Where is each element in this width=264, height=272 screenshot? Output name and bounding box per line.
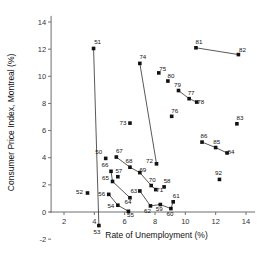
x-tick-label: 12 — [211, 217, 219, 226]
x-tick-label: 4 — [92, 217, 96, 226]
data-point-label-76: 76 — [171, 107, 178, 114]
data-point-61[interactable] — [171, 200, 175, 204]
connector-51-53 — [94, 48, 99, 225]
data-point-label-50: 50 — [95, 148, 102, 155]
data-point-label-86: 86 — [201, 132, 208, 139]
data-point-label-71: 71 — [156, 186, 163, 193]
data-point-label-70: 70 — [149, 176, 156, 183]
data-point-label-63: 63 — [130, 187, 137, 194]
data-point-label-68: 68 — [126, 157, 133, 164]
data-point-68[interactable] — [128, 165, 132, 169]
data-point-83[interactable] — [235, 122, 239, 126]
x-tick-label: 10 — [181, 217, 189, 226]
x-tick-label: 2 — [62, 217, 66, 226]
y-tick-label: 2 — [42, 180, 46, 189]
data-point-label-55: 55 — [127, 211, 134, 218]
data-point-70[interactable] — [149, 184, 153, 188]
data-point-label-78: 78 — [197, 98, 204, 105]
data-point-label-69: 69 — [139, 166, 146, 173]
data-point-82[interactable] — [237, 53, 241, 57]
data-point-label-83: 83 — [236, 114, 243, 121]
data-point-72[interactable] — [155, 162, 159, 166]
data-point-label-54: 54 — [107, 202, 114, 209]
x-axis-title: Rate of Unemployment (%) — [105, 230, 208, 240]
data-point-92[interactable] — [218, 178, 222, 182]
y-axis-title: Consumer Price Index, Montreal (%) — [6, 54, 16, 192]
y-tick-label: 4 — [42, 153, 46, 162]
y-tick-label: 8 — [42, 99, 46, 108]
data-point-label-72: 72 — [146, 157, 153, 164]
data-point-label-75: 75 — [159, 65, 166, 72]
data-point-label-64: 64 — [125, 198, 132, 205]
data-point-54[interactable] — [116, 203, 120, 207]
y-tick-label: 10 — [38, 72, 46, 81]
data-point-label-53: 53 — [93, 228, 100, 235]
data-point-65[interactable] — [111, 180, 115, 184]
connector-74-72 — [140, 63, 157, 163]
data-point-76[interactable] — [170, 115, 174, 119]
data-point-label-60: 60 — [166, 210, 173, 217]
connector-62-63 — [140, 191, 151, 206]
data-point-66[interactable] — [109, 169, 113, 173]
data-point-label-73: 73 — [120, 119, 127, 126]
data-point-label-84: 84 — [228, 148, 235, 155]
data-point-label-57: 57 — [115, 167, 122, 174]
data-point-label-51: 51 — [94, 38, 101, 45]
data-point-73[interactable] — [128, 121, 132, 125]
chart-canvas: -2024681012142468101214Rate of Unemploym… — [0, 0, 264, 272]
data-point-label-80: 80 — [167, 72, 174, 79]
data-point-67[interactable] — [115, 155, 119, 159]
data-point-label-52: 52 — [76, 188, 83, 195]
x-tick-label: 14 — [242, 217, 250, 226]
data-point-56[interactable] — [107, 193, 111, 197]
y-tick-label: 0 — [42, 208, 46, 217]
data-point-label-65: 65 — [102, 174, 109, 181]
data-point-label-61: 61 — [173, 192, 180, 199]
data-point-label-67: 67 — [116, 147, 123, 154]
data-point-57[interactable] — [116, 175, 120, 179]
y-tick-label: -2 — [39, 235, 46, 244]
data-point-85[interactable] — [214, 146, 218, 150]
connector-81-82 — [196, 48, 238, 55]
data-point-label-82: 82 — [239, 46, 246, 53]
data-point-label-81: 81 — [196, 38, 203, 45]
data-point-label-74: 74 — [139, 53, 146, 60]
data-point-51[interactable] — [92, 47, 96, 51]
y-tick-label: 14 — [38, 18, 46, 27]
data-point-label-92: 92 — [215, 169, 222, 176]
data-point-52[interactable] — [86, 191, 90, 195]
data-point-79[interactable] — [177, 89, 181, 93]
y-tick-label: 6 — [42, 126, 46, 135]
x-tick-label: 6 — [123, 217, 127, 226]
data-point-label-62: 62 — [144, 207, 151, 214]
data-point-label-66: 66 — [102, 161, 109, 168]
data-point-label-77: 77 — [188, 89, 195, 96]
data-point-81[interactable] — [194, 46, 198, 50]
x-tick-label: 8 — [153, 217, 157, 226]
data-point-80[interactable] — [166, 79, 170, 83]
data-point-50[interactable] — [104, 157, 108, 161]
data-point-label-59: 59 — [156, 205, 163, 212]
y-tick-label: 12 — [38, 45, 46, 54]
data-point-74[interactable] — [138, 62, 142, 66]
data-point-label-79: 79 — [174, 81, 181, 88]
data-point-label-56: 56 — [98, 190, 105, 197]
data-point-label-85: 85 — [213, 138, 220, 145]
data-point-77[interactable] — [187, 97, 191, 101]
connector-65-64 — [113, 181, 130, 197]
scatter-plot-figure: -2024681012142468101214Rate of Unemploym… — [0, 0, 264, 272]
data-point-label-58: 58 — [164, 177, 171, 184]
data-point-63[interactable] — [138, 189, 142, 193]
data-point-86[interactable] — [200, 140, 204, 144]
